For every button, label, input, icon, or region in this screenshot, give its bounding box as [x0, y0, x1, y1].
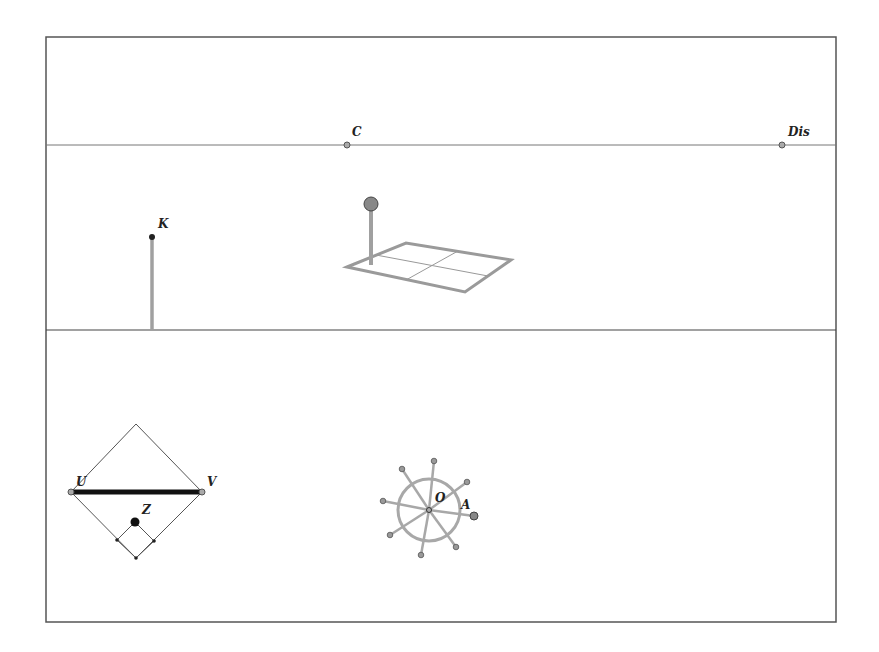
point-v[interactable]	[199, 489, 205, 495]
pin-head[interactable]	[364, 197, 378, 211]
wheel-spoke[interactable]	[421, 510, 429, 555]
point-small-left[interactable]	[115, 538, 119, 542]
point-u[interactable]	[68, 489, 74, 495]
label-z: Z	[141, 503, 152, 517]
diamond-small[interactable]	[117, 522, 154, 558]
spoke-end[interactable]	[380, 498, 386, 504]
label-u: U	[76, 475, 88, 489]
label-k: K	[157, 217, 169, 231]
point-a[interactable]	[470, 512, 478, 520]
point-small-right[interactable]	[152, 539, 156, 543]
point-o[interactable]	[427, 508, 432, 513]
point-c[interactable]	[344, 142, 350, 148]
spoke-end[interactable]	[464, 479, 470, 485]
label-c: C	[352, 125, 362, 139]
point-small-bottom[interactable]	[134, 556, 138, 560]
spoke-end[interactable]	[399, 466, 405, 472]
spoke-end[interactable]	[453, 544, 459, 550]
spoke-end[interactable]	[387, 532, 393, 538]
wheel-spoke[interactable]	[429, 461, 434, 510]
label-dis: Dis	[787, 125, 810, 139]
geometry-canvas[interactable]: C Dis K U V Z O	[0, 0, 879, 652]
plane-midline-2	[406, 251, 458, 280]
label-a: A	[460, 498, 470, 512]
point-k[interactable]	[149, 234, 155, 240]
label-v: V	[207, 475, 218, 489]
spoke-end[interactable]	[418, 552, 424, 558]
point-dis[interactable]	[779, 142, 785, 148]
point-z[interactable]	[131, 518, 140, 527]
wheel-spoke[interactable]	[390, 510, 429, 535]
label-o: O	[435, 491, 446, 505]
wheel-spoke[interactable]	[383, 501, 429, 510]
spoke-end[interactable]	[431, 458, 437, 464]
